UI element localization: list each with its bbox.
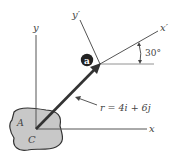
origin-label-C: C — [28, 134, 36, 145]
position-vector-r — [36, 68, 96, 129]
y-prime-axis-label: y′ — [71, 9, 81, 20]
vector-equation-label: r = 4i + 6j — [100, 102, 151, 113]
angle-label: 30° — [145, 48, 161, 58]
point-a-label: a — [84, 56, 90, 66]
x-axis-label: x — [149, 123, 155, 134]
x-prime-axis-label: x′ — [160, 22, 169, 33]
angle-arrow-down-icon — [138, 60, 142, 64]
body-label-A: A — [16, 117, 24, 128]
r-leader-line — [78, 98, 97, 105]
y-axis-label: y — [32, 22, 39, 33]
angle-arc — [139, 44, 141, 62]
vector-diagram: a y x x′ y′ 30° r = 4i + 6j A C — [0, 0, 174, 157]
